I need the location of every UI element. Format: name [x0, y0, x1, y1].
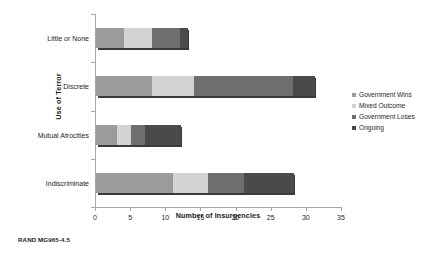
- bar-segment[interactable]: [96, 76, 153, 96]
- x-axis-title: Number of Insurgencies: [95, 211, 341, 220]
- bar-segment[interactable]: [173, 173, 209, 193]
- figure-caption: RAND MG965-4.5: [18, 236, 70, 243]
- bar-inner: [96, 173, 293, 193]
- category-label: Discrete: [63, 83, 89, 90]
- legend-swatch-icon: [352, 93, 356, 97]
- bar-segment[interactable]: [180, 28, 188, 48]
- bar-segment[interactable]: [194, 76, 293, 96]
- legend-label: Mixed Outcome: [359, 102, 405, 109]
- y-tick: [91, 159, 95, 160]
- y-tick: [91, 14, 95, 15]
- y-tick: [91, 111, 95, 112]
- chart-figure: Use of Terror 05101520253035 Little or N…: [0, 0, 444, 256]
- category-label: Little or None: [47, 35, 89, 42]
- legend-label: Ongoing: [359, 124, 384, 131]
- legend-item[interactable]: Government Wins: [352, 89, 415, 100]
- bar-stack[interactable]: [96, 76, 314, 96]
- y-tick: [91, 62, 95, 63]
- bar-segment[interactable]: [131, 125, 146, 145]
- bar-inner: [96, 76, 314, 96]
- bar-segment[interactable]: [208, 173, 244, 193]
- bar-inner: [96, 28, 187, 48]
- bar-segment[interactable]: [117, 125, 132, 145]
- category-label: Mutual Atrocities: [38, 131, 89, 138]
- legend-swatch-icon: [352, 126, 356, 130]
- legend-item[interactable]: Ongoing: [352, 122, 415, 133]
- bar-stack[interactable]: [96, 28, 187, 48]
- y-tick: [91, 207, 95, 208]
- bar-inner: [96, 125, 180, 145]
- category-label: Indiscriminate: [46, 179, 89, 186]
- bar-segment[interactable]: [293, 76, 315, 96]
- bar-segment[interactable]: [244, 173, 294, 193]
- bar-segment[interactable]: [124, 28, 153, 48]
- legend-label: Government Loses: [359, 113, 415, 120]
- bar-segment[interactable]: [152, 76, 195, 96]
- legend-swatch-icon: [352, 104, 356, 108]
- bar-segment[interactable]: [96, 173, 174, 193]
- bar-segment[interactable]: [96, 28, 125, 48]
- chart-legend: Government WinsMixed OutcomeGovernment L…: [352, 89, 415, 133]
- bar-stack[interactable]: [96, 173, 293, 193]
- plot-area: 05101520253035 Little or NoneDiscreteMut…: [95, 14, 341, 207]
- y-axis-title: Use of Terror: [54, 57, 63, 137]
- bar-stack[interactable]: [96, 125, 180, 145]
- bar-segment[interactable]: [96, 125, 118, 145]
- legend-swatch-icon: [352, 115, 356, 119]
- bar-segment[interactable]: [152, 28, 181, 48]
- legend-item[interactable]: Mixed Outcome: [352, 100, 415, 111]
- legend-item[interactable]: Government Loses: [352, 111, 415, 122]
- legend-label: Government Wins: [359, 91, 412, 98]
- x-tick: [341, 207, 342, 211]
- bar-segment[interactable]: [145, 125, 181, 145]
- x-axis-line: [95, 207, 341, 208]
